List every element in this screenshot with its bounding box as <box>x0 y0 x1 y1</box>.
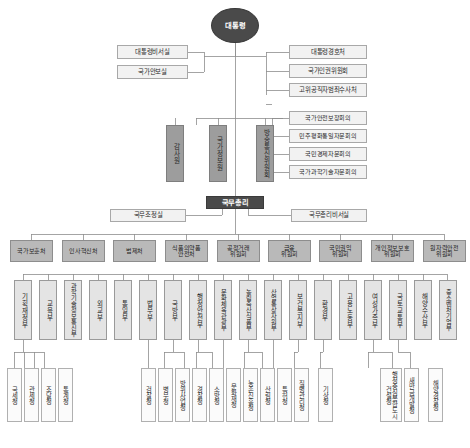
agency-korea-communications-commission[interactable]: 방송통신위원회 <box>256 125 274 182</box>
ministry-employment-labor[interactable]: 고용노동부 <box>339 280 357 340</box>
ministry-national-defense[interactable]: 국방부 <box>164 280 182 340</box>
agency-defense-acquisition-program[interactable]: 방위사업청 <box>175 368 190 422</box>
commission-legislation[interactable]: 법제처 <box>113 240 156 262</box>
ministry-sme-startups[interactable]: 중소벤처기업부 <box>439 280 457 340</box>
ministry-interior-safety[interactable]: 행정안전부 <box>189 280 207 340</box>
office-pm-secretariat[interactable]: 국무총리비서실 <box>291 209 367 222</box>
agency-national-fire[interactable]: 소방청 <box>209 368 224 422</box>
president-node[interactable]: 대통령 <box>211 8 259 43</box>
commission-nuclear-safety-security[interactable]: 원자력안전 위원회 <box>423 240 466 262</box>
ministry-trade-industry-energy[interactable]: 산업통상자원부 <box>264 280 282 340</box>
agency-statistics-korea[interactable]: 통계청 <box>58 368 73 422</box>
agency-korea-forest-service[interactable]: 산림청 <box>260 368 275 422</box>
ministry-culture-sports-tourism[interactable]: 문화체육관광부 <box>214 280 232 340</box>
office-government-policy-coordination[interactable]: 국무조정실 <box>110 209 186 222</box>
office-presidential-security-service[interactable]: 대통령경호처 <box>289 45 367 59</box>
ministry-gender-equality-family[interactable]: 여성가족부 <box>364 280 382 340</box>
office-human-rights-commission[interactable]: 국가인권위원회 <box>289 64 367 78</box>
ministry-unification[interactable]: 통일부 <box>114 280 132 340</box>
agency-rural-development-administration[interactable]: 농촌진흥청 <box>243 368 258 422</box>
agency-korea-customs-service[interactable]: 관세청 <box>24 368 39 422</box>
ministry-science-ict[interactable]: 과학기술정보통신부 <box>64 280 82 340</box>
council-national-security[interactable]: 국가안전보장회의 <box>289 111 367 125</box>
ministry-land-infrastructure-transport[interactable]: 국토교통부 <box>389 280 407 340</box>
ministry-agriculture-food-rural-affairs[interactable]: 농림축산식품부 <box>239 280 257 340</box>
agency-national-intelligence-service[interactable]: 국가정보원 <box>209 125 227 182</box>
ministry-oceans-fisheries[interactable]: 해양수산부 <box>414 280 432 340</box>
agency-cultural-heritage-administration[interactable]: 문화재청 <box>226 368 241 422</box>
agency-national-police[interactable]: 경찰청 <box>192 368 207 422</box>
ministry-justice[interactable]: 법무부 <box>139 280 157 340</box>
commission-veterans-affairs[interactable]: 국가보훈처 <box>10 240 53 262</box>
agency-korea-coast-guard[interactable]: 해양경찰청 <box>428 368 443 422</box>
agency-national-tax-service[interactable]: 국세청 <box>7 368 22 422</box>
agency-public-procurement-service[interactable]: 조달청 <box>41 368 56 422</box>
ministry-environment[interactable]: 환경부 <box>314 280 332 340</box>
agency-intellectual-property-office[interactable]: 특허청 <box>277 368 292 422</box>
agency-korea-meteorological-administration[interactable]: 기상청 <box>318 368 333 422</box>
office-presidential-secretariat[interactable]: 대통령비서실 <box>117 45 188 59</box>
office-cio-corruption-investigation[interactable]: 고위공직자범죄수사처 <box>289 83 367 97</box>
council-national-economy[interactable]: 국민경제자문회의 <box>289 147 367 161</box>
commission-personnel-management[interactable]: 인사혁신처 <box>62 240 105 262</box>
ministry-education[interactable]: 교육부 <box>39 280 57 340</box>
commission-financial-services[interactable]: 금융 위원회 <box>268 240 311 262</box>
agency-board-of-audit[interactable]: 감사원 <box>166 125 184 182</box>
agency-military-manpower-administration[interactable]: 병무청 <box>158 368 173 422</box>
government-org-chart: 대통령 대통령비서실 국가안보실 대통령경호처 국가인권위원회 고위공직자범죄수… <box>0 0 470 448</box>
ministry-economy-finance[interactable]: 기획재정부 <box>14 280 32 340</box>
agency-multifunctional-administrative-city-construction[interactable]: 행정중심복합도시건설청 <box>380 368 402 422</box>
agency-disease-control-prevention[interactable]: 질병관리청 <box>294 368 309 422</box>
office-national-security[interactable]: 국가안보실 <box>117 65 188 79</box>
agency-saemangeum-development[interactable]: 새만금개발청 <box>404 368 419 422</box>
prime-minister-node[interactable]: 국무총리 <box>206 196 264 209</box>
ministry-foreign-affairs[interactable]: 외교부 <box>89 280 107 340</box>
council-peaceful-unification[interactable]: 민주평화통일자문회의 <box>289 129 367 143</box>
ministry-health-welfare[interactable]: 보건복지부 <box>289 280 307 340</box>
commission-food-drug-safety[interactable]: 식품의약품 안전처 <box>165 240 208 262</box>
commission-personal-information-protection[interactable]: 개인정보보호 위원회 <box>371 240 414 262</box>
commission-fair-trade[interactable]: 공정거래 위원회 <box>217 240 260 262</box>
council-science-technology[interactable]: 국가과학기술자문회의 <box>289 165 367 179</box>
agency-prosecution-service[interactable]: 검찰청 <box>141 368 156 422</box>
commission-anti-corruption-civil-rights[interactable]: 국민권익 위원회 <box>319 240 362 262</box>
